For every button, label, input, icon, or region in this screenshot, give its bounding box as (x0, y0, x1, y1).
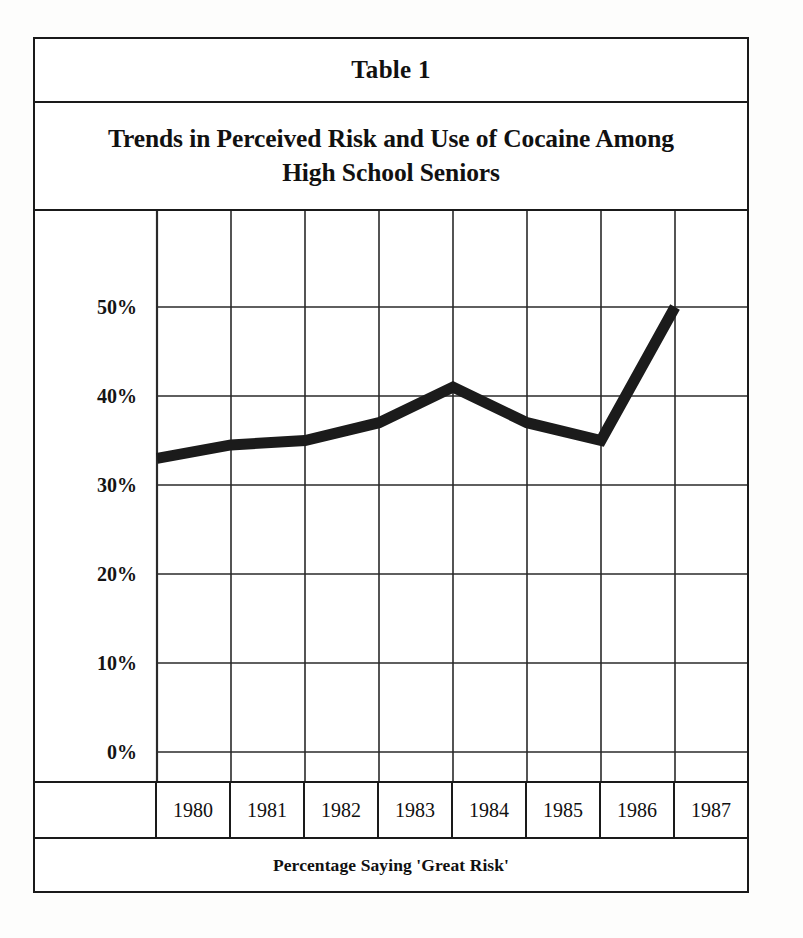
y-axis-tick-40pct: 40% (97, 385, 137, 407)
scanned-page: Table 1 Trends in Perceived Risk and Use… (0, 0, 803, 938)
x-axis-cell-empty (35, 783, 157, 837)
x-axis-cell-1987: 1987 (675, 783, 747, 837)
x-axis-cell-1982: 1982 (305, 783, 379, 837)
chart-title-row: Trends in Perceived Risk and Use of Coca… (35, 103, 747, 211)
horizontal-gridlines (157, 307, 747, 781)
chart-footer-row: Percentage Saying 'Great Risk' (35, 839, 747, 891)
y-axis-tick-labels: 50%40%30%20%10%0% (97, 296, 137, 763)
chart-title-line-2: High School Seniors (282, 156, 500, 190)
y-axis-tick-30pct: 30% (97, 474, 137, 496)
x-axis-cell-1983: 1983 (379, 783, 453, 837)
x-axis-cell-1984: 1984 (453, 783, 527, 837)
y-axis-tick-0pct: 0% (107, 741, 137, 763)
x-axis-cell-1986: 1986 (601, 783, 675, 837)
vertical-gridlines (157, 211, 747, 781)
y-axis-tick-10pct: 10% (97, 652, 137, 674)
x-axis-label-row: 1980 1981 1982 1983 1984 1985 1986 1987 (35, 781, 747, 839)
table-frame: Table 1 Trends in Perceived Risk and Use… (33, 37, 749, 893)
table-caption-row: Table 1 (35, 39, 747, 103)
y-axis-tick-50pct: 50% (97, 296, 137, 318)
y-axis-tick-20pct: 20% (97, 563, 137, 585)
chart-footer-caption: Percentage Saying 'Great Risk' (273, 855, 509, 876)
chart-plot-area: 50%40%30%20%10%0% (35, 211, 747, 781)
chart-title-line-1: Trends in Perceived Risk and Use of Coca… (108, 122, 674, 156)
x-axis-cell-1985: 1985 (527, 783, 601, 837)
table-caption: Table 1 (351, 56, 431, 84)
line-chart-svg: 50%40%30%20%10%0% (35, 211, 747, 781)
x-axis-cell-1980: 1980 (157, 783, 231, 837)
x-axis-cell-1981: 1981 (231, 783, 305, 837)
data-series-line (157, 307, 675, 458)
